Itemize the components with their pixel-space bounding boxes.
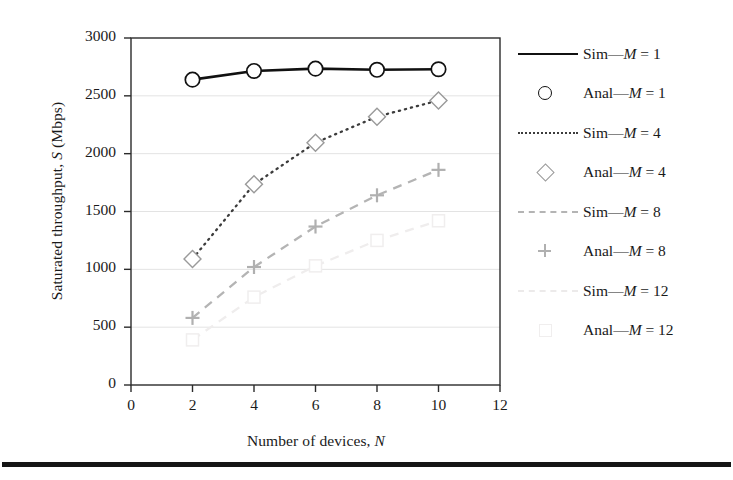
legend-label-post: = 1	[642, 84, 666, 101]
legend-label-pre: Sim—	[583, 124, 623, 141]
marker-square	[248, 291, 260, 303]
marker-diamond	[369, 108, 386, 125]
y-tick-label: 500	[46, 316, 116, 334]
legend-label: Sim—M = 4	[581, 124, 661, 142]
marker-circle	[370, 63, 384, 77]
y-tick-label: 2000	[46, 143, 116, 161]
legend-label-post: = 12	[636, 282, 668, 299]
series-line-6	[193, 221, 439, 340]
marker-diamond	[307, 134, 324, 151]
legend-label: Sim—M = 8	[581, 203, 661, 221]
legend-key	[515, 43, 581, 65]
legend-label-post: = 12	[642, 321, 674, 338]
legend-item[interactable]: Anal—M = 8	[515, 232, 730, 272]
x-axis-title-pre: Number of devices,	[247, 432, 375, 449]
legend-label-symbol: M	[623, 203, 636, 220]
legend-item[interactable]: Anal—M = 1	[515, 74, 730, 114]
legend-key-diamond	[536, 164, 554, 182]
legend-item[interactable]: Sim—M = 1	[515, 34, 730, 74]
legend-label-pre: Anal—	[583, 84, 629, 101]
marker-square	[310, 260, 322, 272]
figure-chart: Saturated throughput, S (Mbps) Number of…	[0, 0, 733, 480]
marker-diamond	[430, 92, 447, 109]
marker-square	[371, 234, 383, 246]
x-axis-title: Number of devices, N	[131, 432, 501, 450]
legend-item[interactable]: Sim—M = 4	[515, 113, 730, 153]
series-line-2	[193, 100, 439, 258]
marker-square	[433, 215, 445, 227]
legend-key-plus	[538, 244, 551, 257]
x-tick-label: 2	[173, 396, 213, 414]
legend-label: Anal—M = 1	[581, 84, 666, 102]
legend-label-post: = 8	[636, 203, 660, 220]
legend-label-symbol: M	[629, 321, 642, 338]
legend-label-symbol: M	[623, 45, 636, 62]
y-tick-label: 2500	[46, 85, 116, 103]
legend-item[interactable]: Sim—M = 8	[515, 192, 730, 232]
legend-key	[515, 201, 581, 223]
legend-key	[515, 240, 581, 262]
legend-key	[515, 319, 581, 341]
legend-label-symbol: M	[623, 124, 636, 141]
y-tick-label: 1500	[46, 201, 116, 219]
legend-key-circle	[538, 86, 552, 100]
y-axis-title-pre: Saturated throughput,	[48, 160, 65, 300]
x-tick-label: 0	[111, 396, 151, 414]
legend-key	[515, 280, 581, 302]
legend-label-symbol: M	[629, 84, 642, 101]
legend-key-line-solid	[518, 53, 578, 55]
x-tick-label: 8	[357, 396, 397, 414]
x-tick-label: 12	[480, 396, 520, 414]
legend-label-pre: Anal—	[583, 163, 629, 180]
legend-key	[515, 161, 581, 183]
legend-label: Anal—M = 12	[581, 321, 674, 339]
legend-label-pre: Anal—	[583, 321, 629, 338]
x-tick-label: 10	[419, 396, 459, 414]
legend-label-pre: Sim—	[583, 282, 623, 299]
marker-square	[187, 334, 199, 346]
legend-label-pre: Anal—	[583, 242, 629, 259]
legend-label: Sim—M = 12	[581, 282, 668, 300]
legend-key	[515, 82, 581, 104]
legend-label-pre: Sim—	[583, 45, 623, 62]
marker-circle	[247, 64, 261, 78]
legend-label-post: = 4	[642, 163, 666, 180]
x-tick-label: 6	[296, 396, 336, 414]
legend-label-post: = 4	[636, 124, 660, 141]
footer-rule	[2, 462, 731, 467]
series-line-4	[193, 170, 439, 318]
legend-item[interactable]: Anal—M = 12	[515, 311, 730, 351]
marker-diamond	[184, 250, 201, 267]
legend-label-post: = 8	[642, 242, 666, 259]
legend-label-symbol: M	[629, 163, 642, 180]
legend-key-line-dotted	[518, 132, 578, 134]
x-tick-label: 4	[234, 396, 274, 414]
marker-circle	[185, 72, 199, 86]
legend-label-post: = 1	[636, 45, 660, 62]
y-tick-label: 0	[46, 374, 116, 392]
legend-label: Sim—M = 1	[581, 45, 661, 63]
legend-label-pre: Sim—	[583, 203, 623, 220]
legend-label: Anal—M = 8	[581, 242, 666, 260]
legend-key-line-dashed	[518, 211, 578, 213]
y-tick-label: 3000	[46, 27, 116, 45]
legend-key-square	[539, 324, 552, 337]
y-tick-label: 1000	[46, 258, 116, 276]
legend-label-symbol: M	[629, 242, 642, 259]
x-axis-title-symbol: N	[375, 432, 385, 449]
legend-label-symbol: M	[623, 282, 636, 299]
legend-item[interactable]: Sim—M = 12	[515, 271, 730, 311]
legend-label: Anal—M = 4	[581, 163, 666, 181]
legend-key	[515, 122, 581, 144]
legend-item[interactable]: Anal—M = 4	[515, 153, 730, 193]
chart-legend: Sim—M = 1Anal—M = 1Sim—M = 4Anal—M = 4Si…	[515, 34, 730, 350]
marker-circle	[431, 62, 445, 76]
legend-key-line-faint	[518, 290, 578, 292]
marker-circle	[308, 61, 322, 75]
